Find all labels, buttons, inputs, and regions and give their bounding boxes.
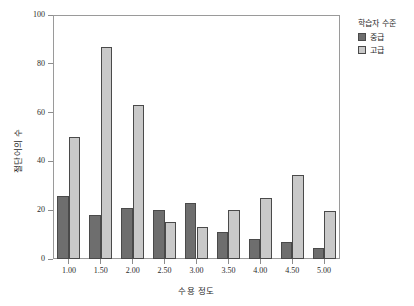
bar bbox=[260, 198, 271, 259]
x-axis-tick-mark bbox=[68, 259, 69, 264]
x-axis-tick-label: 4.00 bbox=[244, 266, 276, 275]
x-axis-tick-label: 4.50 bbox=[276, 266, 308, 275]
bar bbox=[153, 210, 164, 259]
legend-swatch-icon bbox=[358, 33, 366, 41]
bar bbox=[69, 137, 80, 259]
bar bbox=[313, 248, 324, 259]
bar bbox=[249, 239, 260, 259]
x-axis-tick-label: 3.00 bbox=[181, 266, 213, 275]
x-axis-tick-label: 3.50 bbox=[212, 266, 244, 275]
x-axis-title: 수용 정도 bbox=[53, 284, 340, 296]
x-axis-tick-mark bbox=[164, 259, 165, 264]
x-axis-tick-mark bbox=[100, 259, 101, 264]
x-axis-tick-mark bbox=[196, 259, 197, 264]
bar bbox=[101, 47, 112, 259]
bar bbox=[197, 227, 208, 259]
bar bbox=[281, 242, 292, 259]
legend-title: 학습자 수준 bbox=[358, 17, 412, 28]
bar bbox=[228, 210, 239, 259]
bar bbox=[89, 215, 100, 259]
legend-swatch-icon bbox=[358, 46, 366, 54]
x-axis-tick-label: 5.00 bbox=[308, 266, 340, 275]
x-axis-tick-mark bbox=[324, 259, 325, 264]
bar-chart-figure: 020406080100 절단어의 수 1.001.502.002.503.00… bbox=[0, 0, 414, 306]
bar bbox=[185, 203, 196, 259]
bar bbox=[165, 222, 176, 259]
x-axis-tick-mark bbox=[132, 259, 133, 264]
legend-item: 고급 bbox=[358, 44, 412, 55]
bar bbox=[324, 211, 335, 259]
bar bbox=[57, 196, 68, 259]
x-axis-tick-mark bbox=[260, 259, 261, 264]
bar bbox=[292, 175, 303, 259]
x-axis-tick-label: 1.00 bbox=[53, 266, 85, 275]
legend-item-label: 중급 bbox=[370, 31, 384, 42]
legend-entries: 중급고급 bbox=[358, 31, 412, 55]
x-axis: 1.001.502.002.503.003.504.004.505.00 bbox=[53, 259, 340, 285]
legend-item-label: 고급 bbox=[370, 44, 384, 55]
bar bbox=[121, 208, 132, 259]
legend-item: 중급 bbox=[358, 31, 412, 42]
bar bbox=[217, 232, 228, 259]
x-axis-tick-mark bbox=[228, 259, 229, 264]
bar bbox=[133, 105, 144, 259]
x-axis-tick-label: 1.50 bbox=[85, 266, 117, 275]
legend: 학습자 수준 중급고급 bbox=[358, 17, 412, 57]
x-axis-tick-mark bbox=[292, 259, 293, 264]
x-axis-tick-label: 2.50 bbox=[149, 266, 181, 275]
x-axis-tick-label: 2.00 bbox=[117, 266, 149, 275]
